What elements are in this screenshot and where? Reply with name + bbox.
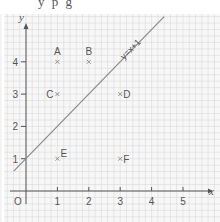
point-label: B	[85, 46, 92, 57]
y-axis-label: y	[18, 11, 24, 23]
point-label: D	[123, 89, 130, 100]
point-label: A	[54, 46, 61, 57]
y-tick-label: 3	[12, 89, 18, 100]
y-tick-label: 2	[12, 121, 18, 132]
x-tick-label: 5	[180, 196, 186, 207]
x-tick-label: 1	[55, 196, 61, 207]
x-tick-label: 4	[149, 196, 155, 207]
y-tick-label: 4	[12, 57, 18, 68]
x-tick-label: 3	[117, 196, 123, 207]
y-tick-label: 1	[12, 154, 18, 165]
origin-label: O	[14, 196, 22, 207]
point-label: F	[123, 154, 129, 165]
x-axis-label: x	[208, 185, 214, 197]
x-tick-label: 2	[86, 196, 92, 207]
point-label: E	[60, 148, 67, 159]
point-label: C	[46, 89, 53, 100]
coordinate-grid: xyO123451234 y=x+1 ABCDEF	[0, 0, 220, 222]
